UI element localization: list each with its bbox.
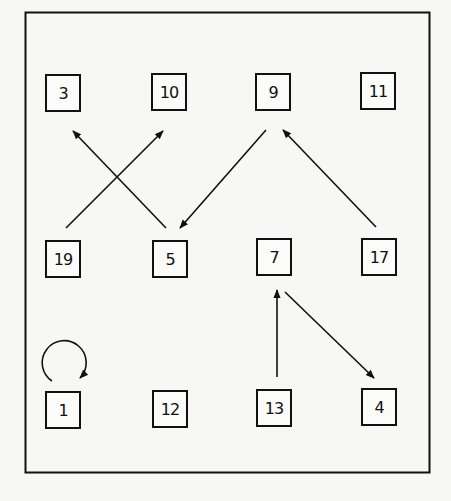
node-5: 5 — [152, 240, 188, 278]
edge-1-self-loop — [42, 341, 86, 381]
node-1: 1 — [45, 391, 81, 429]
edge-17-to-9 — [283, 130, 376, 227]
node-9: 9 — [255, 73, 291, 111]
edge-9-to-5 — [180, 130, 266, 228]
edge-7-to-4 — [285, 292, 374, 378]
node-7: 7 — [256, 238, 292, 276]
edge-19-to-10 — [66, 131, 163, 228]
node-17: 17 — [361, 238, 397, 276]
node-12: 12 — [152, 390, 188, 428]
node-4: 4 — [361, 388, 397, 426]
node-3: 3 — [45, 74, 81, 112]
node-13: 13 — [256, 389, 292, 427]
node-11: 11 — [360, 72, 396, 110]
edges — [42, 130, 376, 381]
node-19: 19 — [45, 240, 81, 278]
edge-5-to-3 — [73, 131, 166, 228]
node-10: 10 — [151, 73, 187, 111]
